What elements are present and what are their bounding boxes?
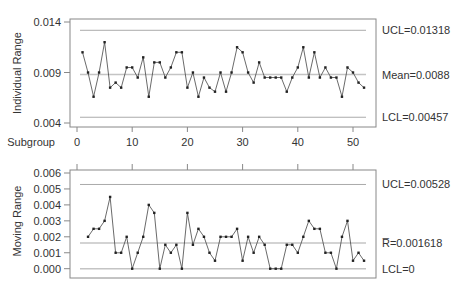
data-point bbox=[252, 81, 254, 83]
data-point bbox=[363, 86, 365, 88]
data-point bbox=[114, 81, 116, 83]
data-point bbox=[131, 66, 133, 68]
data-point bbox=[148, 96, 150, 98]
individuals-chart: 0.0040.0090.014 01020304050 Individual R… bbox=[7, 16, 450, 148]
data-point bbox=[269, 76, 271, 78]
data-point bbox=[153, 212, 155, 214]
data-point bbox=[319, 76, 321, 78]
data-point bbox=[142, 236, 144, 238]
data-point bbox=[170, 66, 172, 68]
y-tick-label: 0.001 bbox=[33, 247, 61, 259]
data-point bbox=[137, 76, 139, 78]
data-point bbox=[148, 204, 150, 206]
data-point bbox=[241, 260, 243, 262]
y-tick-label: 0.003 bbox=[33, 215, 61, 227]
data-point bbox=[81, 51, 83, 53]
data-point bbox=[192, 71, 194, 73]
subgroup-x-axis: 01020304050 bbox=[74, 127, 359, 148]
data-point bbox=[214, 90, 216, 92]
data-point bbox=[357, 252, 359, 254]
data-point bbox=[219, 236, 221, 238]
data-point bbox=[98, 228, 100, 230]
data-point bbox=[247, 236, 249, 238]
data-point bbox=[92, 228, 94, 230]
data-point bbox=[170, 252, 172, 254]
moving-range-ucl-label: UCL=0.00528 bbox=[382, 178, 450, 190]
data-point bbox=[203, 76, 205, 78]
individuals-mean-label: Mean=0.0088 bbox=[382, 69, 450, 81]
moving-range-data-points bbox=[87, 196, 365, 270]
data-point bbox=[87, 236, 89, 238]
moving-range-y-axis-label: Moving Range bbox=[11, 186, 23, 257]
data-point bbox=[208, 252, 210, 254]
data-point bbox=[346, 220, 348, 222]
data-point bbox=[114, 252, 116, 254]
data-point bbox=[297, 66, 299, 68]
data-point bbox=[153, 61, 155, 63]
data-point bbox=[363, 260, 365, 262]
data-point bbox=[247, 71, 249, 73]
data-point bbox=[219, 71, 221, 73]
data-point bbox=[159, 268, 161, 270]
individuals-lcl-label: LCL=0.00457 bbox=[382, 111, 448, 123]
individuals-data-points bbox=[81, 41, 365, 98]
data-point bbox=[109, 86, 111, 88]
data-point bbox=[203, 236, 205, 238]
moving-range-plot-frame bbox=[70, 170, 376, 278]
data-point bbox=[186, 212, 188, 214]
data-point bbox=[313, 228, 315, 230]
data-point bbox=[120, 252, 122, 254]
data-point bbox=[335, 76, 337, 78]
x-tick-label: 30 bbox=[236, 136, 248, 148]
data-point bbox=[197, 228, 199, 230]
y-tick-label: 0.009 bbox=[33, 67, 61, 79]
data-point bbox=[258, 236, 260, 238]
data-point bbox=[98, 71, 100, 73]
data-point bbox=[352, 260, 354, 262]
data-point bbox=[164, 244, 166, 246]
y-tick-label: 0.006 bbox=[33, 167, 61, 179]
data-point bbox=[125, 236, 127, 238]
i-mr-control-chart: 0.0040.0090.014 01020304050 Individual R… bbox=[0, 0, 454, 290]
data-point bbox=[120, 86, 122, 88]
data-point bbox=[308, 76, 310, 78]
data-point bbox=[352, 71, 354, 73]
data-point bbox=[302, 236, 304, 238]
y-tick-label: 0.014 bbox=[33, 16, 61, 28]
moving-range-x-ticks bbox=[77, 164, 353, 170]
data-point bbox=[357, 81, 359, 83]
data-point bbox=[192, 244, 194, 246]
moving-range-chart: 0.0000.0010.0020.0030.0040.0050.006 Movi… bbox=[11, 164, 450, 278]
data-point bbox=[159, 61, 161, 63]
moving-range-series-line bbox=[88, 197, 364, 269]
data-point bbox=[263, 76, 265, 78]
data-point bbox=[175, 51, 177, 53]
data-point bbox=[103, 220, 105, 222]
data-point bbox=[330, 76, 332, 78]
data-point bbox=[241, 51, 243, 53]
data-point bbox=[142, 56, 144, 58]
data-point bbox=[275, 268, 277, 270]
moving-range-rbar-label: R̅=0.001618 bbox=[382, 237, 443, 249]
data-point bbox=[324, 66, 326, 68]
data-point bbox=[291, 76, 293, 78]
data-point bbox=[236, 46, 238, 48]
data-point bbox=[109, 196, 111, 198]
data-point bbox=[324, 252, 326, 254]
data-point bbox=[341, 96, 343, 98]
data-point bbox=[186, 86, 188, 88]
data-point bbox=[87, 71, 89, 73]
data-point bbox=[164, 76, 166, 78]
data-point bbox=[346, 66, 348, 68]
individuals-y-axis-label: Individual Range bbox=[11, 32, 23, 114]
subgroup-axis-label: Subgroup bbox=[7, 136, 55, 148]
data-point bbox=[225, 236, 227, 238]
data-point bbox=[175, 244, 177, 246]
data-point bbox=[137, 252, 139, 254]
data-point bbox=[181, 51, 183, 53]
x-tick-label: 50 bbox=[347, 136, 359, 148]
data-point bbox=[230, 236, 232, 238]
data-point bbox=[208, 86, 210, 88]
data-point bbox=[280, 76, 282, 78]
moving-range-y-axis: 0.0000.0010.0020.0030.0040.0050.006 bbox=[33, 167, 70, 275]
